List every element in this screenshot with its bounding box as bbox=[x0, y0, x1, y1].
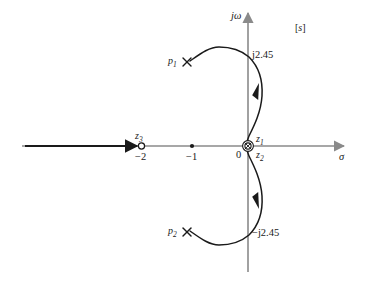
imag-crossing-label-lower: −j2.45 bbox=[252, 228, 279, 239]
root-locus-figure: jω σ [s] 0 p1 p2 z1 z2 z3 −2 −1 j2.45 −j… bbox=[0, 0, 365, 286]
origin-label: 0 bbox=[236, 150, 241, 161]
root-locus-plot bbox=[0, 0, 365, 286]
real-axis-label: σ bbox=[339, 152, 344, 163]
tick-label-minus-two: −2 bbox=[135, 152, 146, 163]
real-axis-point-minus-one bbox=[190, 144, 194, 148]
zero-z1-z2-double-circle-icon bbox=[243, 141, 254, 152]
imag-crossing-label-upper: j2.45 bbox=[252, 50, 273, 61]
pole-p1-label: p1 bbox=[168, 56, 177, 69]
pole-p2-cross-icon bbox=[183, 228, 191, 236]
imaginary-axis-label: jω bbox=[231, 11, 241, 22]
pole-p2-label: p2 bbox=[168, 226, 177, 239]
locus-upper-direction-arrow bbox=[252, 83, 259, 100]
locus-upper-branch bbox=[190, 47, 262, 145]
zero-z2-label: z2 bbox=[256, 150, 264, 163]
pole-p1-cross-icon bbox=[183, 58, 191, 66]
tick-label-minus-one: −1 bbox=[186, 152, 197, 163]
zero-z3-label: z3 bbox=[135, 131, 143, 144]
plane-label: [s] bbox=[295, 23, 306, 33]
locus-lower-direction-arrow bbox=[252, 192, 259, 209]
zero-z1-label: z1 bbox=[256, 134, 264, 147]
